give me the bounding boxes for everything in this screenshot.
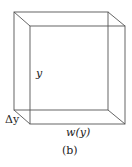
height-label: y	[36, 68, 42, 79]
front-face	[30, 26, 125, 124]
box-diagram	[0, 0, 132, 167]
caption: (b)	[62, 145, 78, 156]
width-label: w(y)	[66, 127, 90, 138]
thickness-label: Δy	[5, 114, 19, 125]
back-face	[14, 12, 108, 110]
